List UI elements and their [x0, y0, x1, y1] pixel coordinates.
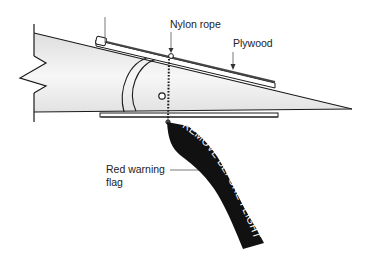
- stabilizer-body: [20, 24, 352, 122]
- nylon-rope-label: Nylon rope: [170, 19, 221, 30]
- red-warning-flag-label-line1: Red warning: [106, 164, 165, 175]
- plywood-bottom: [100, 113, 278, 117]
- hinge-bolt-icon: [159, 93, 165, 99]
- control-surface-lock-drawing: REMOVE BEFORE FLIGHT: [0, 0, 372, 265]
- red-warning-flag-label-line2: flag: [106, 177, 123, 188]
- diagram-canvas: REMOVE BEFORE FLIGHT Nylon rope Plywood …: [0, 0, 372, 265]
- red-warning-flag: REMOVE BEFORE FLIGHT: [167, 119, 264, 249]
- plywood-label: Plywood: [233, 38, 273, 49]
